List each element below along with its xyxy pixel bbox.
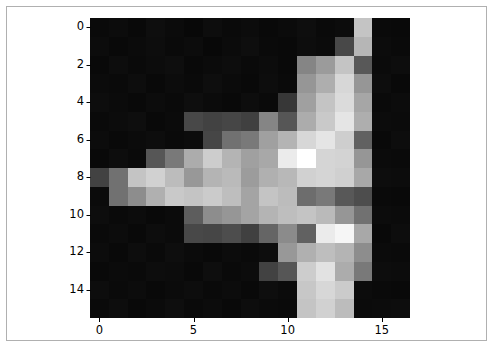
heatmap-cell (335, 243, 354, 262)
y-tick-mark (87, 215, 91, 216)
heatmap-cell (372, 56, 391, 75)
heatmap-cell (354, 206, 373, 225)
heatmap-cell (259, 243, 278, 262)
heatmap-cell (109, 262, 128, 281)
heatmap-cell (278, 206, 297, 225)
heatmap-cell (222, 299, 241, 318)
heatmap-cell (222, 281, 241, 300)
heatmap-cell (335, 262, 354, 281)
heatmap-cell (335, 56, 354, 75)
heatmap-cell (146, 112, 165, 131)
heatmap-cell (165, 262, 184, 281)
heatmap-cell (354, 93, 373, 112)
x-tick-mark (288, 318, 289, 322)
heatmap-cell (372, 149, 391, 168)
heatmap-cell (316, 262, 335, 281)
heatmap-cell (354, 224, 373, 243)
heatmap-cell (278, 131, 297, 150)
heatmap-cell (184, 112, 203, 131)
heatmap-cell (297, 262, 316, 281)
heatmap-cell (278, 281, 297, 300)
heatmap-cell (222, 168, 241, 187)
heatmap-cell (146, 74, 165, 93)
x-tick-mark (382, 318, 383, 322)
heatmap-cell (90, 243, 109, 262)
heatmap-cell (146, 187, 165, 206)
heatmap-cell (203, 262, 222, 281)
heatmap-cell (241, 262, 260, 281)
y-tick-mark (87, 102, 91, 103)
x-tick-mark (194, 318, 195, 322)
heatmap-cell (109, 37, 128, 56)
heatmap-cell (372, 168, 391, 187)
heatmap-cell (354, 243, 373, 262)
heatmap-cell (241, 224, 260, 243)
heatmap-cell (241, 56, 260, 75)
heatmap-cell (128, 168, 147, 187)
heatmap-cell (146, 18, 165, 37)
heatmap-cell (128, 206, 147, 225)
heatmap-cell (259, 262, 278, 281)
heatmap-cell (372, 262, 391, 281)
x-tick-label: 0 (96, 325, 103, 337)
heatmap-cell (316, 299, 335, 318)
heatmap-cell (372, 131, 391, 150)
heatmap-cell (146, 149, 165, 168)
heatmap-cell (354, 299, 373, 318)
heatmap-cell (335, 112, 354, 131)
heatmap-cell (109, 281, 128, 300)
y-tick-label: 4 (77, 97, 84, 109)
heatmap-cell (259, 93, 278, 112)
heatmap-cell (372, 18, 391, 37)
heatmap-cell (222, 262, 241, 281)
heatmap-cell (391, 224, 410, 243)
heatmap-cell (278, 299, 297, 318)
heatmap-cell (372, 74, 391, 93)
heatmap-cell (90, 281, 109, 300)
heatmap-cell (335, 18, 354, 37)
heatmap-cell (259, 74, 278, 93)
heatmap-cell (278, 74, 297, 93)
heatmap-cell (391, 149, 410, 168)
heatmap-cell (391, 18, 410, 37)
y-tick-label: 2 (77, 59, 84, 71)
heatmap-cell (90, 56, 109, 75)
heatmap-cell (128, 18, 147, 37)
heatmap-cell (165, 56, 184, 75)
heatmap-cell (128, 93, 147, 112)
heatmap-cell (297, 37, 316, 56)
heatmap-cell (203, 299, 222, 318)
heatmap-cell (241, 206, 260, 225)
heatmap-cell (391, 74, 410, 93)
heatmap-cell (297, 74, 316, 93)
heatmap-cell (372, 281, 391, 300)
heatmap-cell (128, 187, 147, 206)
heatmap-cell (354, 149, 373, 168)
heatmap-cell (203, 206, 222, 225)
heatmap-cell (335, 168, 354, 187)
heatmap-cell (146, 224, 165, 243)
heatmap-cell (278, 149, 297, 168)
heatmap-cell (90, 93, 109, 112)
matplotlib-figure: 02468101214 051015 (0, 0, 499, 355)
heatmap-cell (184, 149, 203, 168)
heatmap-cell (90, 224, 109, 243)
heatmap-cell (222, 74, 241, 93)
heatmap-cell (109, 206, 128, 225)
heatmap-cell (203, 131, 222, 150)
heatmap-cell (165, 206, 184, 225)
heatmap-cell (203, 187, 222, 206)
heatmap-cell (354, 37, 373, 56)
heatmap-cell (372, 299, 391, 318)
heatmap-cell (297, 18, 316, 37)
heatmap-cell (335, 131, 354, 150)
heatmap-cell (109, 56, 128, 75)
heatmap-cell (335, 93, 354, 112)
heatmap-cell (278, 112, 297, 131)
heatmap-cell (297, 206, 316, 225)
heatmap-cell (146, 206, 165, 225)
heatmap-cell (259, 187, 278, 206)
heatmap-cell (335, 149, 354, 168)
heatmap-cell (316, 112, 335, 131)
heatmap-cell (222, 206, 241, 225)
